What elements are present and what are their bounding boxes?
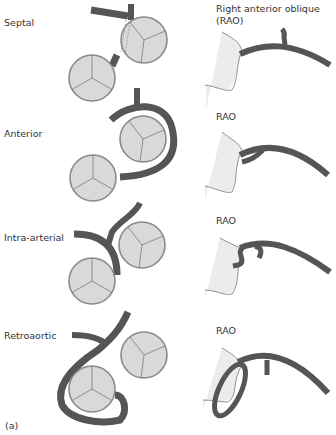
pulmonary-valve: [69, 55, 115, 101]
pulmonary-valve: [69, 366, 115, 412]
intra-arterial-rao-view: [205, 238, 330, 300]
pulmonary-valve: [70, 155, 116, 201]
retroaortic-rao-view: [203, 348, 328, 420]
aortic-valve: [119, 222, 165, 268]
retroaortic-schematic: [61, 312, 167, 422]
aortic-valve: [120, 116, 166, 162]
septal-schematic: [69, 4, 167, 101]
septal-rao-view: [205, 29, 330, 110]
intra-arterial-schematic: [69, 203, 165, 304]
anterior-rao-view: [205, 132, 328, 200]
pulmonary-valve: [69, 258, 115, 304]
aortic-valve: [121, 332, 167, 378]
anterior-schematic: [70, 88, 174, 201]
anatomy-diagram: [0, 0, 336, 435]
aortic-valve: [121, 17, 167, 63]
